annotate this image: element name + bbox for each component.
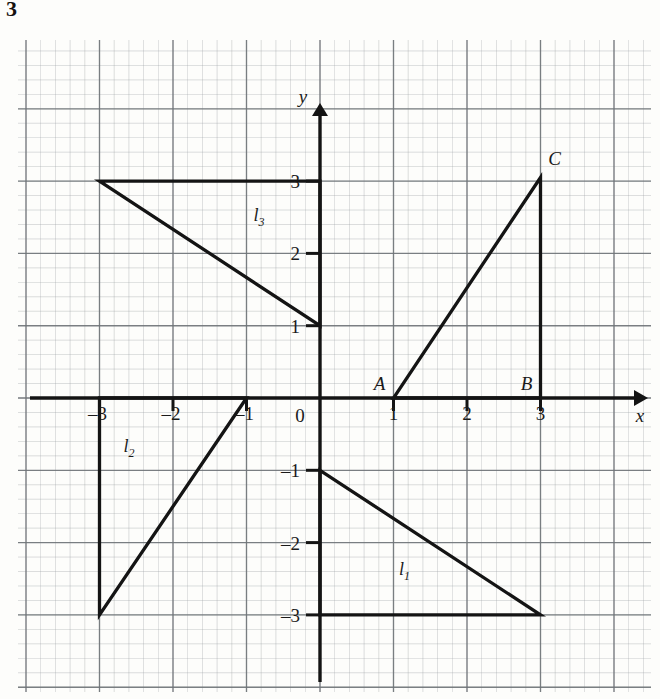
x-axis-label: x: [635, 405, 645, 426]
y-axis-label: y: [297, 86, 308, 107]
x-tick-label: –2: [161, 403, 181, 424]
x-tick-label: 1: [389, 403, 399, 424]
point-label-a: A: [372, 373, 386, 394]
x-tick-label: –3: [87, 403, 107, 424]
coordinate-plot: –3–2–1123321–1–2–30xyABCl1l2l3: [0, 0, 660, 699]
x-axis-arrowhead: [634, 390, 648, 406]
figure-page: 3 –3–2–1123321–1–2–30xyABCl1l2l3: [0, 0, 660, 699]
x-tick-label: 2: [462, 403, 472, 424]
y-tick-label: 1: [291, 316, 301, 337]
y-axis-arrowhead: [312, 103, 328, 116]
x-tick-label: 3: [536, 403, 546, 424]
x-tick-label: –1: [234, 403, 254, 424]
coordinate-grid-svg: –3–2–1123321–1–2–30xyABCl1l2l3: [0, 0, 660, 699]
y-tick-label: –1: [280, 460, 300, 481]
y-tick-label: –3: [280, 605, 300, 626]
y-tick-label: –2: [280, 533, 300, 554]
point-label-b: B: [521, 373, 533, 394]
point-label-c: C: [548, 148, 561, 169]
line-label-l3: l3: [253, 205, 264, 229]
y-tick-label: 2: [291, 243, 301, 264]
origin-label: 0: [295, 405, 305, 426]
labels-group: –3–2–1123321–1–2–30xyABCl1l2l3: [87, 86, 645, 626]
y-tick-label: 3: [291, 171, 301, 192]
